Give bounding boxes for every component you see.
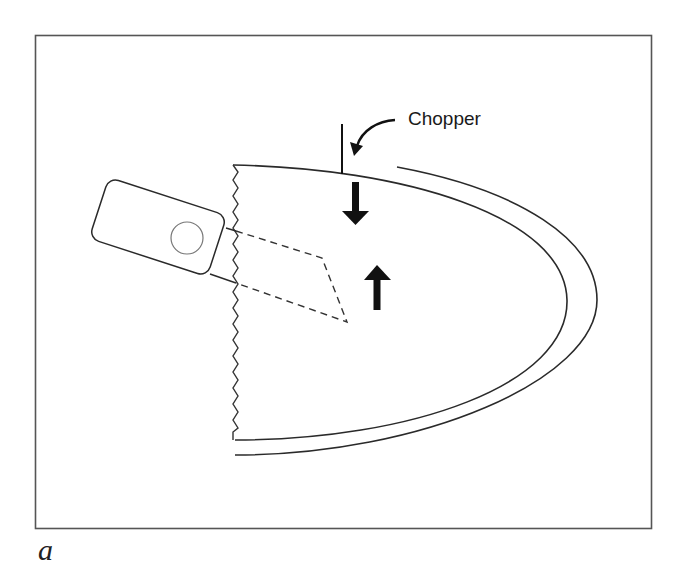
figure-frame [36,36,652,529]
sleeve-line-bottom [210,274,236,283]
diagram-figure: Chopper a [0,0,688,565]
handpiece [89,177,227,276]
zigzag-incision-edge [233,165,238,440]
dashed-tip-path [236,231,347,322]
chopper-label: Chopper [408,108,482,129]
up-arrow-icon [364,265,391,310]
chopper-pointer-curve [357,120,395,146]
down-arrow-icon [342,182,369,225]
panel-label: a [38,533,53,565]
handpiece-body [89,177,227,276]
outer-lens-arc [235,167,597,455]
chopper-pointer-arrowhead-icon [350,142,363,156]
inner-lens-arc [233,165,567,440]
